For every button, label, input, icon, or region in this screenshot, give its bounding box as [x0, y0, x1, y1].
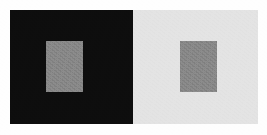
- simultaneous-contrast-figure: [0, 0, 267, 135]
- gray-patch-on-light-surround: [180, 41, 217, 92]
- dark-surround-panel: [10, 10, 133, 124]
- gray-patch-on-dark-surround: [46, 41, 83, 92]
- light-surround-panel: [133, 10, 258, 124]
